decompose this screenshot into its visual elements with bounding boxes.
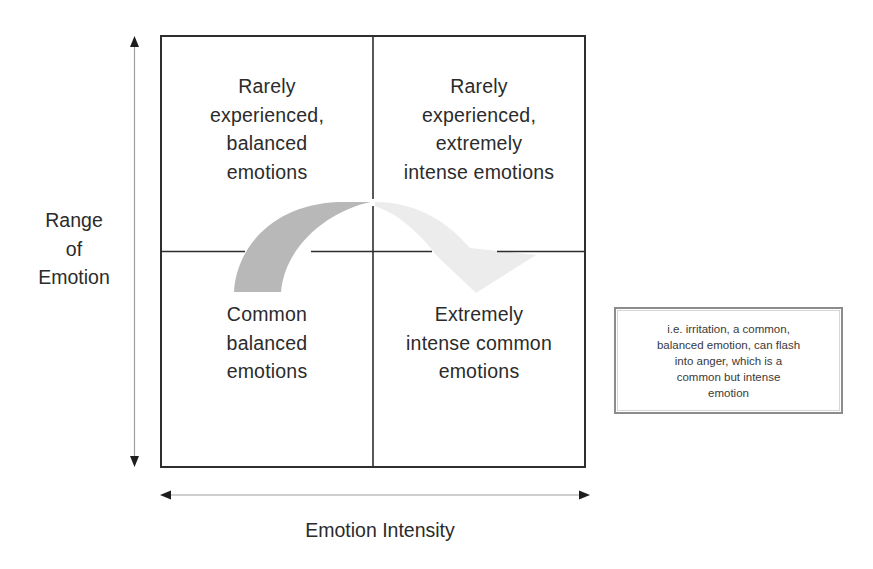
quadrant-top-right-line-1: Rarely <box>373 72 585 101</box>
arc-falling-segment <box>375 202 536 293</box>
quadrant-bottom-left-line-3: emotions <box>161 357 373 386</box>
quadrant-top-right-line-2: experienced, <box>373 101 585 130</box>
arrow-down-icon <box>130 456 139 467</box>
note-line-3: into anger, which is a <box>657 353 800 369</box>
quadrant-top-right-line-4: intense emotions <box>373 158 585 187</box>
quadrant-top-left-line-1: Rarely <box>161 72 373 101</box>
arrow-up-icon <box>130 36 139 47</box>
x-axis-label: Emotion Intensity <box>230 516 530 545</box>
example-note-text: i.e. irritation, a common, balanced emot… <box>647 321 810 401</box>
quadrant-bottom-right-line-2: intense common <box>373 329 585 358</box>
quadrant-bottom-right-line-1: Extremely <box>373 300 585 329</box>
y-axis-label-line-3: Emotion <box>14 263 134 292</box>
quadrant-top-left-label: Rarely experienced, balanced emotions <box>161 72 373 186</box>
transition-arrow <box>234 202 536 293</box>
note-line-4: common but intense <box>657 369 800 385</box>
quadrant-bottom-left-line-1: Common <box>161 300 373 329</box>
note-line-2: balanced emotion, can flash <box>657 337 800 353</box>
example-note-box: i.e. irritation, a common, balanced emot… <box>614 307 843 414</box>
quadrant-top-left-line-3: balanced <box>161 129 373 158</box>
quadrant-bottom-left-line-2: balanced <box>161 329 373 358</box>
quadrant-bottom-right-line-3: emotions <box>373 357 585 386</box>
quadrant-top-right-label: Rarely experienced, extremely intense em… <box>373 72 585 186</box>
note-line-5: emotion <box>657 385 800 401</box>
quadrant-top-right-line-3: extremely <box>373 129 585 158</box>
arc-rising-segment <box>234 202 371 292</box>
y-axis-label-line-2: of <box>14 235 134 264</box>
arrow-right-icon <box>579 491 590 500</box>
quadrant-top-left-line-4: emotions <box>161 158 373 187</box>
quadrant-bottom-right-label: Extremely intense common emotions <box>373 300 585 386</box>
x-axis-label-text: Emotion Intensity <box>230 516 530 545</box>
arrow-left-icon <box>160 491 171 500</box>
quadrant-top-left-line-2: experienced, <box>161 101 373 130</box>
quadrant-bottom-left-label: Common balanced emotions <box>161 300 373 386</box>
note-line-1: i.e. irritation, a common, <box>657 321 800 337</box>
y-axis-label: Range of Emotion <box>14 206 134 292</box>
y-axis-label-line-1: Range <box>14 206 134 235</box>
x-axis-arrow <box>160 491 590 500</box>
